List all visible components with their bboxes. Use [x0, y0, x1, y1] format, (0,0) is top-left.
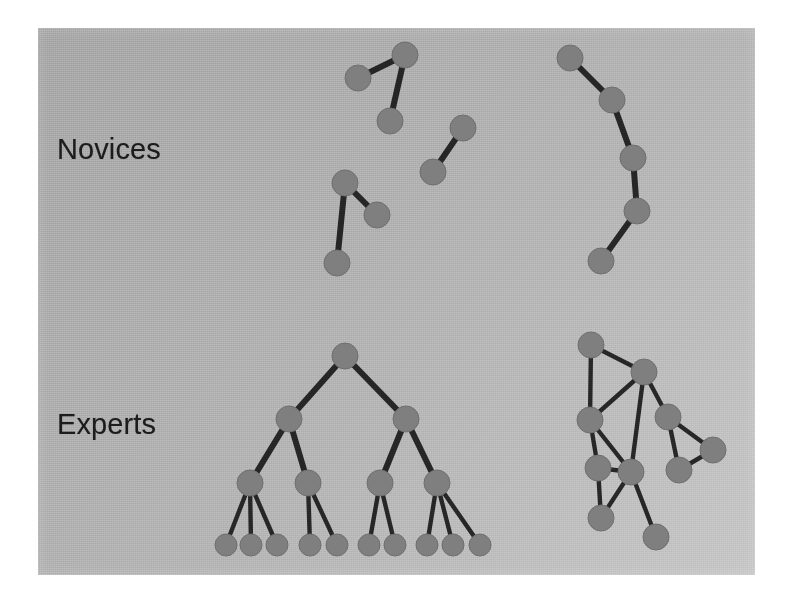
slide-noise-overlay: [38, 28, 755, 575]
slide-canvas: [38, 28, 755, 575]
slide-edge-shadow: [38, 28, 755, 575]
row-label-novices: Novices: [57, 135, 161, 164]
row-label-experts: Experts: [57, 410, 156, 439]
slide-root: Novices Experts: [0, 0, 793, 602]
